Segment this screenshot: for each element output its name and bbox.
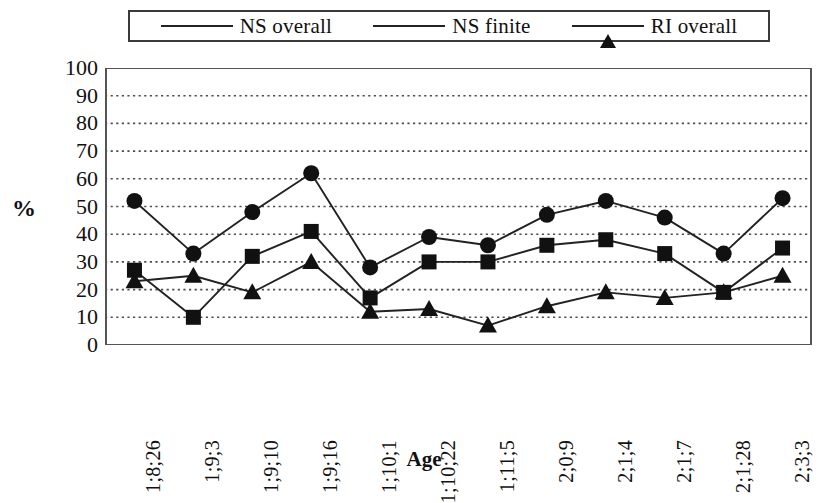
data-point-ns-overall (480, 237, 496, 253)
data-point-ns-overall (126, 193, 142, 209)
legend-label-ns-overall: NS overall (240, 14, 332, 39)
y-tick-label: 60 (76, 168, 98, 190)
data-point-ns-overall (716, 246, 732, 262)
data-point-ri-overall (302, 253, 320, 269)
data-point-ns-finite (186, 310, 201, 325)
y-tick-label: 0 (87, 334, 98, 356)
x-axis-title-text: Age (407, 447, 442, 471)
data-point-ns-overall (185, 246, 201, 262)
plot-area (105, 68, 812, 345)
y-tick-label: 80 (76, 112, 98, 134)
y-tick-label: 40 (76, 223, 98, 245)
x-axis-title: Age (0, 447, 828, 472)
triangle-marker-icon (600, 17, 616, 48)
data-point-ns-overall (303, 165, 319, 181)
data-point-ri-overall (597, 283, 615, 299)
legend-item-ns-overall: NS overall (161, 14, 332, 39)
data-point-ns-finite (304, 224, 319, 239)
data-point-ns-finite (598, 232, 613, 247)
data-point-ri-overall (774, 267, 792, 283)
y-tick-label: 50 (76, 196, 98, 218)
y-tick-label: 30 (76, 251, 98, 273)
y-axis-tick-labels: 1009080706050403020100 (30, 0, 98, 473)
chart-legend: NS overall NS finite RI overall (128, 10, 770, 42)
y-tick-label: 100 (65, 57, 98, 79)
data-point-ri-overall (420, 300, 438, 316)
data-point-ns-finite (539, 238, 554, 253)
y-tick-label: 70 (76, 140, 98, 162)
data-point-ns-overall (421, 229, 437, 245)
data-point-ns-finite (245, 249, 260, 264)
legend-item-ri-overall: RI overall (572, 14, 738, 39)
legend-label-ri-overall: RI overall (651, 14, 738, 39)
series-line-ri-overall (134, 262, 782, 326)
data-point-ns-overall (362, 259, 378, 275)
legend-sample-line-ri-overall (572, 17, 644, 35)
data-point-ns-finite (480, 254, 495, 269)
y-tick-label: 20 (76, 279, 98, 301)
legend-sample-line-ns-overall (161, 17, 233, 35)
data-point-ns-overall (657, 210, 673, 226)
x-axis-tick-labels: 1;8;261;9;31;9;101;9;161;10;11;10;221;11… (105, 352, 812, 447)
series-line-ns-overall (134, 173, 782, 267)
chart-svg (105, 68, 812, 345)
legend-item-ns-finite: NS finite (373, 14, 530, 39)
y-tick-label: 90 (76, 85, 98, 107)
data-point-ns-overall (775, 190, 791, 206)
legend-label-ns-finite: NS finite (452, 14, 530, 39)
data-point-ri-overall (184, 267, 202, 283)
data-point-ns-overall (598, 193, 614, 209)
series-line-ns-finite (134, 231, 782, 317)
legend-sample-line-ns-finite (373, 17, 445, 35)
data-point-ns-overall (244, 204, 260, 220)
data-point-ns-finite (657, 246, 672, 261)
data-point-ns-finite (775, 241, 790, 256)
y-tick-label: 10 (76, 306, 98, 328)
data-point-ns-finite (422, 254, 437, 269)
data-point-ns-overall (539, 207, 555, 223)
